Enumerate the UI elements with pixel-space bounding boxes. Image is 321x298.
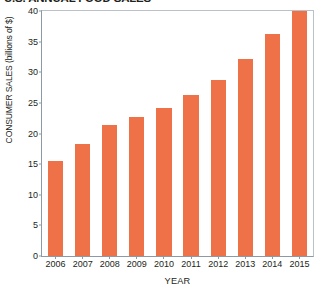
y-tick-label: 35 — [28, 37, 38, 46]
x-axis-label: YEAR — [41, 276, 314, 286]
y-tick-label: 20 — [28, 129, 38, 138]
bar-slot — [183, 11, 198, 256]
bar-slot — [102, 11, 117, 256]
bar-slot — [75, 11, 90, 256]
bar-slot — [129, 11, 144, 256]
bar-slot — [211, 11, 226, 256]
bar-slot — [265, 11, 280, 256]
bar — [183, 95, 198, 256]
y-axis-label: CONSUMER SALES (billions of $) — [4, 0, 14, 185]
bar — [156, 108, 171, 256]
bar-slot — [156, 11, 171, 256]
bar-series — [42, 11, 313, 256]
bar — [129, 117, 144, 256]
bar — [265, 34, 280, 256]
x-tick-label: 2015 — [279, 260, 319, 269]
bar-slot — [48, 11, 63, 256]
y-tick-label: 30 — [28, 68, 38, 77]
bar — [48, 161, 63, 256]
bar — [238, 59, 253, 256]
bar-slot — [292, 11, 307, 256]
bar — [211, 80, 226, 256]
y-tick-label: 15 — [28, 160, 38, 169]
chart-title: U.S. ANNUAL FOOD SALES — [4, 0, 151, 4]
y-tick-label: 40 — [28, 7, 38, 16]
y-tick-label: 25 — [28, 98, 38, 107]
chart-figure: U.S. ANNUAL FOOD SALES CONSUMER SALES (b… — [0, 0, 321, 298]
bar — [292, 11, 307, 256]
bar — [75, 144, 90, 256]
plot-area: 0510152025303540 20062007200820092010201… — [41, 10, 314, 257]
bar — [102, 125, 117, 256]
chart-title-clipped: U.S. ANNUAL FOOD SALES — [4, 0, 204, 5]
y-tick-label: 10 — [28, 190, 38, 199]
y-tick-label: 5 — [33, 221, 38, 230]
bar-slot — [238, 11, 253, 256]
